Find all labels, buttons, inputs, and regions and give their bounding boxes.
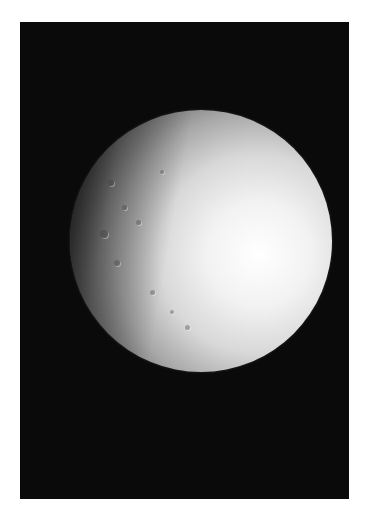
moon-body <box>70 110 332 372</box>
crater <box>100 230 108 238</box>
crater <box>160 170 164 174</box>
crater <box>108 180 114 186</box>
photo-frame <box>20 22 349 499</box>
crater <box>122 205 127 210</box>
crater <box>136 220 141 225</box>
crater <box>185 325 190 330</box>
crater <box>170 310 174 314</box>
crater <box>114 260 120 266</box>
crater <box>150 290 155 295</box>
terminator-shadow <box>70 110 332 372</box>
